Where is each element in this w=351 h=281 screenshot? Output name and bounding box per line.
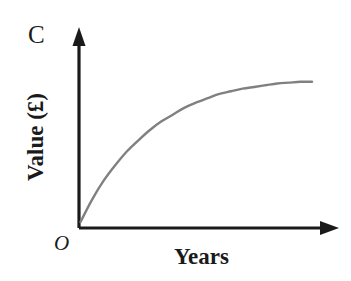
asymptote-label-c: C: [28, 22, 45, 47]
y-axis-arrowhead: [73, 27, 86, 46]
x-axis-title: Years: [0, 245, 351, 268]
y-axis-title: Value (£): [24, 93, 47, 181]
value-curve: [81, 82, 313, 222]
value-vs-years-chart: C O Value (£) Years: [0, 0, 351, 281]
x-axis-arrowhead: [320, 221, 339, 235]
chart-plot-area: [0, 0, 351, 281]
